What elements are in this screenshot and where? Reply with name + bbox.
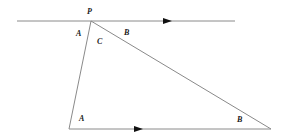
- angle-label-bottom-left-a: A: [78, 114, 85, 123]
- vertex-label-p: P: [87, 7, 92, 16]
- angle-label-top-right-b: B: [123, 28, 130, 37]
- angle-label-top-c: C: [97, 37, 103, 46]
- angle-label-bottom-right-b: B: [236, 115, 243, 124]
- triangle-diagram: P A C B A B: [0, 0, 288, 137]
- top-line-arrow-icon: [163, 18, 172, 24]
- triangle-right-side: [91, 21, 271, 129]
- base-arrow-icon: [134, 126, 143, 132]
- angle-label-top-left-a: A: [75, 29, 82, 38]
